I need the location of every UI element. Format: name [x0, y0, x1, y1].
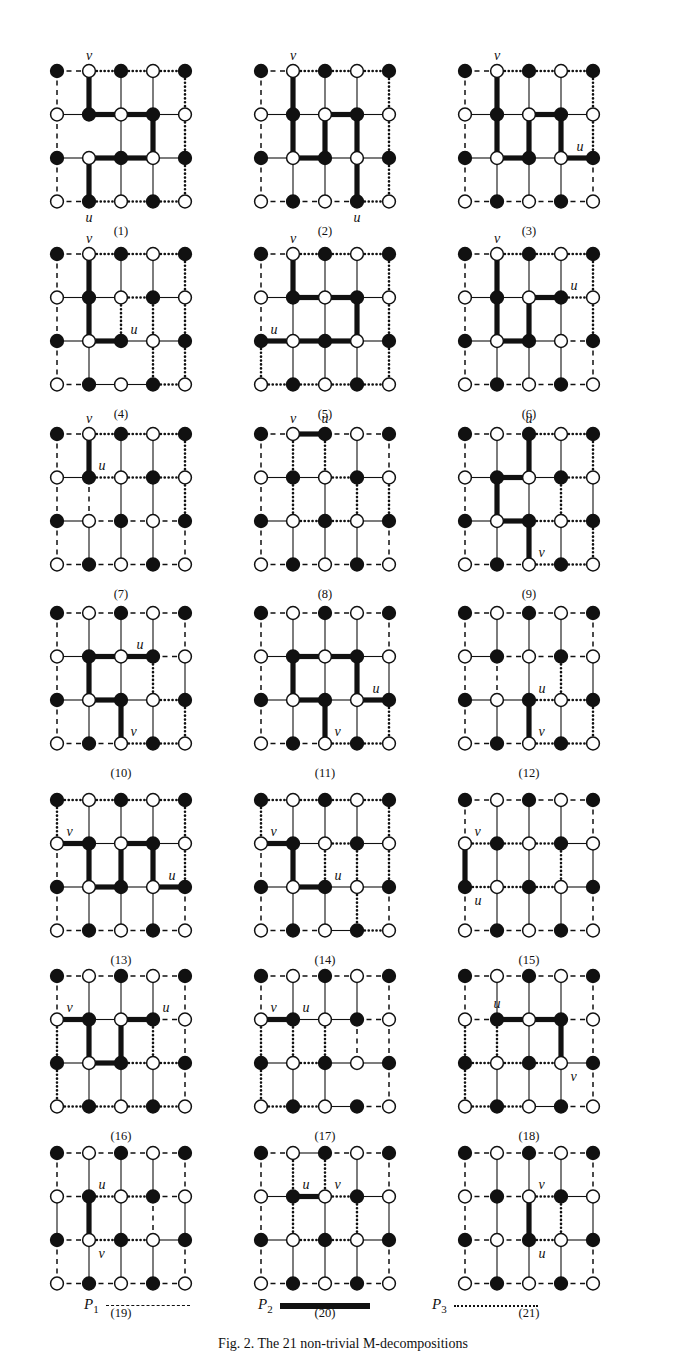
vertex-label-v: v [290, 411, 297, 426]
vertex-white [459, 471, 472, 484]
panel-graph-6: vu(6) [449, 238, 609, 423]
vertex-white [147, 881, 160, 894]
vertex-black [459, 694, 472, 707]
vertex-label-u: u [494, 996, 501, 1011]
vertex-black [179, 694, 192, 707]
legend-label-p1: P1 [84, 1296, 99, 1315]
vertex-black [587, 515, 600, 528]
vertex-white [555, 794, 568, 807]
vertex-black [523, 65, 536, 78]
panel-number-3: (3) [522, 224, 537, 238]
vertex-white [147, 694, 160, 707]
vertex-black [115, 248, 128, 261]
vertex-black [523, 694, 536, 707]
vertex-label-u: u [169, 868, 176, 883]
vertex-white [383, 924, 396, 937]
vertex-white [83, 428, 96, 441]
vertex-black [351, 1100, 364, 1113]
vertex-label-v: v [86, 48, 93, 63]
panel-number-2: (2) [318, 224, 333, 238]
vertex-white [459, 924, 472, 937]
panel-graph-2: vu(2) [245, 55, 405, 240]
vertex-label-v: v [494, 231, 501, 246]
vertex-white [147, 335, 160, 348]
vertex-black [287, 195, 300, 208]
vertex-white [179, 837, 192, 850]
vertex-black [383, 794, 396, 807]
vertex-white [319, 1190, 332, 1203]
vertex-white [555, 694, 568, 707]
vertex-black [255, 335, 268, 348]
vertex-black [255, 152, 268, 165]
vertex-white [51, 737, 64, 750]
vertex-white [287, 152, 300, 165]
panel-graph-5: vu(5) [245, 238, 405, 423]
vertex-label-u: u [162, 1000, 169, 1015]
vertex-white [83, 65, 96, 78]
vertex-black [491, 650, 504, 663]
vertex-black [523, 1147, 536, 1160]
vertex-white [459, 1190, 472, 1203]
vertex-white [351, 335, 364, 348]
vertex-white [179, 1013, 192, 1026]
legend-item-p2: P2 [258, 1296, 370, 1315]
vertex-black [523, 970, 536, 983]
vertex-white [255, 924, 268, 937]
panel-graph-4: vu(4) [41, 238, 201, 423]
vertex-white [383, 1190, 396, 1203]
vertex-white [255, 195, 268, 208]
vertex-black [459, 1234, 472, 1247]
vertex-label-v: v [270, 824, 277, 839]
legend-item-p1: P1 [84, 1296, 190, 1315]
panel-number-11: (11) [315, 766, 335, 780]
vertex-white [383, 291, 396, 304]
vertex-white [587, 195, 600, 208]
vertex-black [587, 65, 600, 78]
panel-7: vu(7) [41, 418, 201, 603]
vertex-white [319, 924, 332, 937]
vertex-white [83, 515, 96, 528]
vertex-black [51, 65, 64, 78]
vertex-black [383, 152, 396, 165]
panel-graph-8: vu(8) [245, 418, 405, 603]
vertex-white [51, 1013, 64, 1026]
panel-4: vu(4) [41, 238, 201, 423]
vertex-black [147, 650, 160, 663]
vertex-white [255, 471, 268, 484]
vertex-white [147, 515, 160, 528]
vertex-black [255, 970, 268, 983]
vertex-black [255, 881, 268, 894]
vertex-black [83, 195, 96, 208]
vertex-black [383, 248, 396, 261]
panel-graph-14: vu(14) [245, 784, 405, 969]
figure-container: vu(1)vu(2)vu(3)vu(4)vu(5)vu(6)vu(7)vu(8)… [0, 0, 686, 1365]
vertex-black [287, 924, 300, 937]
vertex-white [351, 515, 364, 528]
vertex-white [319, 1013, 332, 1026]
vertex-white [459, 108, 472, 121]
vertex-black [555, 1100, 568, 1113]
vertex-black [287, 291, 300, 304]
vertex-white [555, 335, 568, 348]
vertex-white [459, 558, 472, 571]
vertex-white [383, 737, 396, 750]
legend: P1 P2 P3 [0, 1288, 686, 1328]
vertex-white [491, 515, 504, 528]
vertex-black [83, 650, 96, 663]
vertex-black [83, 1013, 96, 1026]
vertex-black [383, 694, 396, 707]
vertex-black [383, 1147, 396, 1160]
vertex-white [179, 1190, 192, 1203]
vertex-black [351, 378, 364, 391]
vertex-label-v: v [474, 824, 481, 839]
vertex-black [287, 837, 300, 850]
vertex-white [523, 471, 536, 484]
vertex-label-u: u [570, 278, 577, 293]
legend-swatch-dotted [454, 1305, 538, 1307]
panel-graph-17: vu(17) [245, 960, 405, 1145]
vertex-black [115, 428, 128, 441]
vertex-black [115, 794, 128, 807]
vertex-black [179, 881, 192, 894]
vertex-white [351, 794, 364, 807]
vertex-black [115, 970, 128, 983]
